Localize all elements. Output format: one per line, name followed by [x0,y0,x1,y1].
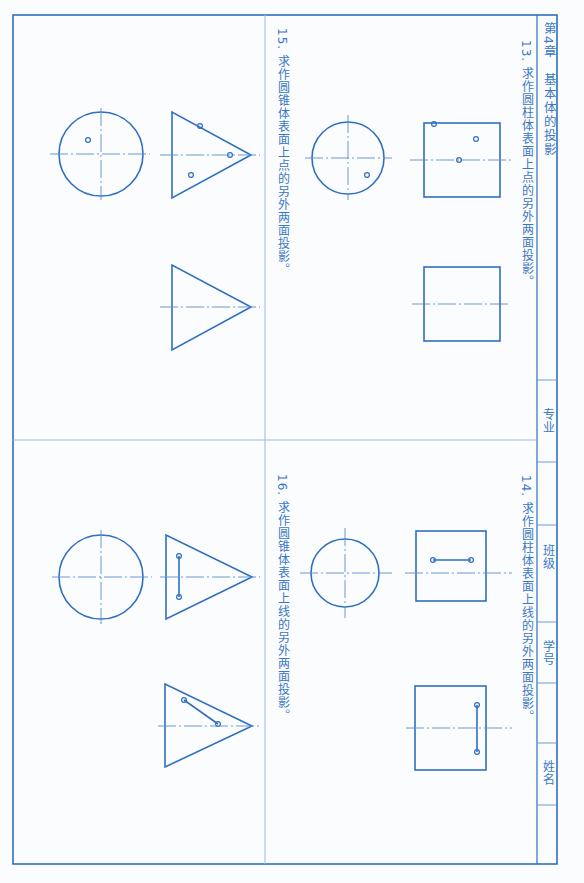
worksheet-page: 第4章 基本体的投影 专业 班级 学号 姓名 13. 求作圆柱体表面上点的另外两… [0,0,584,883]
problem-16-drawing [59,535,252,767]
problem-16-title: 16. 求作圆锥体表面上线的另外两面投影。 [274,474,291,722]
field-student-id-label: 学号 [539,640,556,666]
field-class-label: 班级 [539,544,556,570]
field-major-label: 专业 [539,408,556,434]
field-name-label: 姓名 [539,760,556,786]
problem-13-drawing [312,122,500,197]
problem-15-drawing [59,112,251,350]
problem-14-drawing [311,531,486,770]
problem-15-title: 15. 求作圆锥体表面上点的另外两面投影。 [274,28,291,276]
chapter-title: 第4章 基本体的投影 [539,22,558,157]
problem-14-title: 14. 求作圆柱体表面上线的另外两面投影。 [518,475,535,723]
drawing-canvas [0,0,584,883]
problem-13-title: 13. 求作圆柱体表面上点的另外两面投影。 [518,40,535,288]
